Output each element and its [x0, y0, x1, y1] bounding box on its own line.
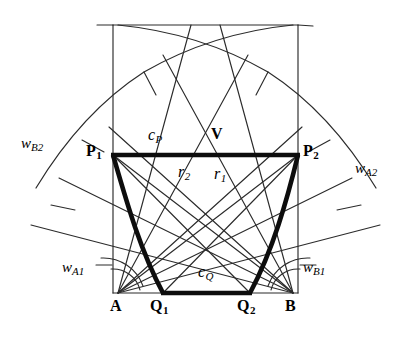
top-line-extension-right [298, 25, 313, 26]
point-label-Q2: Q2 [237, 298, 255, 314]
big-arc-centered-at-A [118, 25, 376, 188]
point-label-V: V [211, 126, 223, 142]
chord-label-cP: cP [148, 127, 162, 143]
point-label-A: A [110, 298, 122, 314]
spoke-A-1 [118, 25, 191, 293]
point-label-P1: P1 [86, 143, 101, 159]
radius-label-r2: r2 [178, 164, 190, 180]
chord-label-cQ: cQ [198, 264, 213, 280]
angle-label-wB2: wB2 [21, 136, 43, 151]
angle-label-wA1: wA1 [62, 260, 84, 275]
angle-label-wB1: wB1 [303, 260, 325, 275]
big-arc-centered-at-B [36, 25, 293, 188]
point-label-B: B [285, 298, 296, 314]
arc-tick-right-upper [256, 72, 268, 95]
arc-tick-right-lower [337, 205, 361, 210]
angle-label-wA2: wA2 [355, 161, 377, 176]
diagram-canvas [0, 0, 416, 340]
point-label-Q1: Q1 [150, 298, 168, 314]
geometry-figure: P1 P2 V A B Q1 Q2 cP cQ r1 r2 wA1 wB1 wA… [0, 0, 416, 340]
arc-tick-left-lower [51, 205, 75, 210]
point-label-P2: P2 [303, 143, 318, 159]
radius-label-r1: r1 [214, 166, 226, 182]
arc-tick-left-upper [144, 72, 156, 95]
